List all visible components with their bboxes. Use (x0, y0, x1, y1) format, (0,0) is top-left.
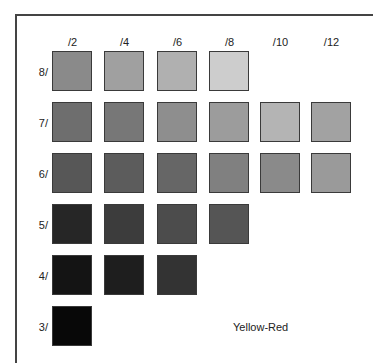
color-swatch-value-6-chroma-4 (104, 153, 144, 193)
color-swatch-value-7-chroma-2 (52, 102, 92, 142)
row-label-value-7: 7/ (30, 117, 48, 129)
color-swatch-value-7-chroma-8 (209, 102, 249, 142)
color-swatch-value-7-chroma-4 (104, 102, 144, 142)
color-swatch-value-5-chroma-8 (209, 204, 249, 244)
color-swatch-value-8-chroma-4 (104, 51, 144, 91)
color-swatch-value-6-chroma-10 (260, 153, 300, 193)
column-label-chroma-8: /8 (209, 36, 250, 48)
color-swatch-value-6-chroma-8 (209, 153, 249, 193)
color-swatch-value-7-chroma-6 (157, 102, 197, 142)
column-label-chroma-6: /6 (157, 36, 198, 48)
color-swatch-value-6-chroma-6 (157, 153, 197, 193)
column-label-chroma-2: /2 (52, 36, 93, 48)
row-label-value-8: 8/ (30, 66, 48, 78)
hue-label: Yellow-Red (233, 321, 288, 333)
color-swatch-value-5-chroma-4 (104, 204, 144, 244)
color-swatch-value-4-chroma-6 (157, 255, 197, 295)
color-swatch-value-3-chroma-2 (52, 306, 92, 346)
row-label-value-5: 5/ (30, 219, 48, 231)
color-swatch-value-8-chroma-2 (52, 51, 92, 91)
color-swatch-value-7-chroma-12 (311, 102, 351, 142)
row-label-value-6: 6/ (30, 168, 48, 180)
color-swatch-value-6-chroma-12 (311, 153, 351, 193)
column-label-chroma-12: /12 (311, 36, 352, 48)
color-swatch-value-4-chroma-2 (52, 255, 92, 295)
frame-top-border (15, 14, 373, 16)
column-label-chroma-10: /10 (260, 36, 301, 48)
color-swatch-value-8-chroma-8 (209, 51, 249, 91)
color-swatch-value-5-chroma-6 (157, 204, 197, 244)
color-swatch-value-7-chroma-10 (260, 102, 300, 142)
color-swatch-value-4-chroma-4 (104, 255, 144, 295)
row-label-value-4: 4/ (30, 270, 48, 282)
row-label-value-3: 3/ (30, 321, 48, 333)
color-swatch-value-5-chroma-2 (52, 204, 92, 244)
color-swatch-value-6-chroma-2 (52, 153, 92, 193)
color-swatch-value-8-chroma-6 (157, 51, 197, 91)
column-label-chroma-4: /4 (104, 36, 145, 48)
frame-left-border (15, 14, 17, 363)
